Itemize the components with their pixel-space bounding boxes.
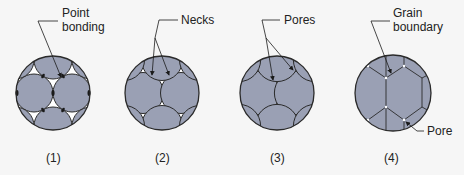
caption-4: (4) xyxy=(384,151,399,165)
annotation-boundary: boundary xyxy=(393,20,443,34)
particle xyxy=(217,104,260,147)
particle xyxy=(72,107,110,145)
particle xyxy=(180,40,221,81)
particle xyxy=(142,40,183,81)
annotation-pore: Pore xyxy=(427,124,453,138)
particle xyxy=(104,106,145,147)
stage-2: Necks (2) xyxy=(104,13,221,165)
caption-3: (3) xyxy=(270,151,285,165)
particle xyxy=(180,106,221,147)
stage-4: Grain boundary Pore (4) xyxy=(345,6,453,165)
particle xyxy=(53,74,91,112)
particle xyxy=(217,38,260,81)
particle xyxy=(104,40,145,81)
particle xyxy=(293,38,336,81)
annotation-pores: Pores xyxy=(284,13,315,27)
particle xyxy=(255,104,298,147)
leader-line xyxy=(262,20,280,38)
particle xyxy=(0,107,34,145)
leader-line xyxy=(155,20,178,38)
particle xyxy=(34,107,72,145)
annotation-grain: Grain xyxy=(393,6,422,20)
annotation-point: Point xyxy=(62,6,90,20)
caption-1: (1) xyxy=(46,151,61,165)
caption-2: (2) xyxy=(155,151,170,165)
particle xyxy=(0,41,34,79)
particle xyxy=(255,38,298,81)
particle xyxy=(15,74,53,112)
stage-1: Point bonding (1) xyxy=(0,6,110,165)
particle xyxy=(293,104,336,147)
annotation-necks: Necks xyxy=(181,13,214,27)
stage-3: Pores (3) xyxy=(217,13,336,165)
particle xyxy=(72,41,110,79)
annotation-bonding: bonding xyxy=(62,20,105,34)
particle xyxy=(142,106,183,147)
particle xyxy=(34,41,72,79)
sintering-diagram: Point bonding (1) Necks (2) xyxy=(0,0,464,175)
